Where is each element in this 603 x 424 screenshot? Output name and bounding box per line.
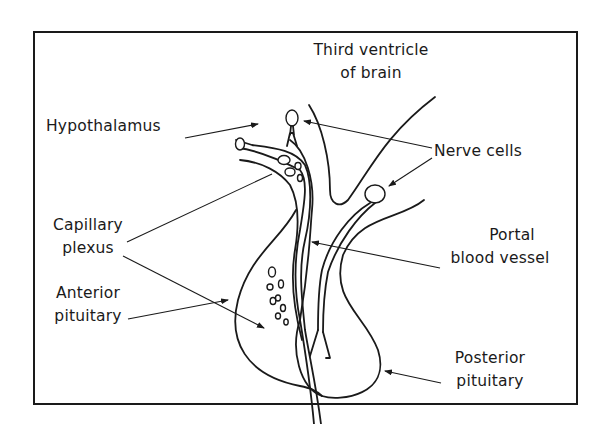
hypothalamus-leader xyxy=(185,124,258,138)
capillary-leader-lower xyxy=(123,256,264,328)
label-capillary-plexus: Capillary plexus xyxy=(44,216,132,258)
lower-capillary-plexus xyxy=(267,267,288,325)
posterior-leader xyxy=(385,371,441,383)
label-anterior-pituitary: Anterior pituitary xyxy=(46,284,130,326)
capillary-leader-upper xyxy=(127,174,272,242)
nerve-cells-leader-lower xyxy=(389,158,432,186)
nerve-cells-leader-upper xyxy=(304,121,432,148)
label-third-ventricle: Third ventricle of brain xyxy=(297,41,445,83)
label-hypothalamus: Hypothalamus xyxy=(46,117,161,136)
label-portal-blood-vessel: Portal blood vessel xyxy=(438,226,562,268)
label-nerve-cells: Nerve cells xyxy=(434,142,522,161)
anterior-pituitary-outline xyxy=(235,210,322,396)
portal-blood-vessel xyxy=(236,138,322,424)
label-posterior-pituitary: Posterior pituitary xyxy=(448,349,532,391)
anterior-leader xyxy=(128,300,228,319)
posterior-nerve-cell xyxy=(310,185,385,358)
